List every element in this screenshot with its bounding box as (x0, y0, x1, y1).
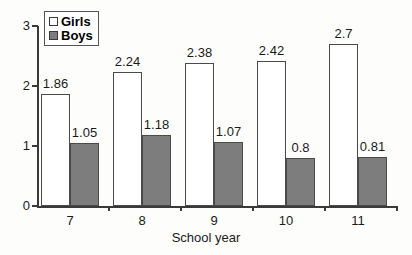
x-tick-mark (324, 206, 326, 211)
y-tick-label: 0 (10, 199, 30, 212)
x-tick-mark (252, 206, 254, 211)
bar-value-label: 2.42 (250, 44, 294, 58)
legend-swatch-girls-icon (49, 17, 58, 26)
legend-label-boys: Boys (61, 29, 93, 42)
bar-boys-year-8 (142, 135, 171, 206)
x-tick-mark (180, 206, 182, 211)
bar-girls-year-8 (113, 72, 142, 206)
bar-value-label: 0.81 (351, 140, 395, 154)
bar-value-label: 0.8 (279, 141, 323, 155)
bar-boys-year-11 (358, 157, 387, 206)
bar-value-label: 2.7 (322, 27, 366, 41)
chart-legend: Girls Boys (44, 11, 99, 46)
x-axis-title: School year (0, 231, 412, 245)
bar-girls-year-10 (257, 61, 286, 206)
x-tick-mark (396, 206, 398, 211)
bar-value-label: 2.38 (178, 46, 222, 60)
bar-value-label: 1.86 (34, 77, 78, 91)
legend-item-girls: Girls (49, 14, 93, 28)
bar-chart: 0123 1.861.052.241.182.381.072.420.82.70… (0, 0, 412, 255)
bar-value-label: 1.07 (207, 125, 251, 139)
x-tick-label-10: 10 (266, 214, 306, 228)
y-tick-label: 3 (10, 19, 30, 32)
x-tick-label-8: 8 (122, 214, 162, 228)
bar-girls-year-11 (329, 44, 358, 206)
x-tick-mark (108, 206, 110, 211)
x-tick-label-7: 7 (50, 214, 90, 228)
y-tick-label: 2 (10, 79, 30, 92)
legend-label-girls: Girls (61, 15, 91, 28)
y-axis-line (37, 26, 39, 208)
bar-value-label: 1.05 (63, 126, 107, 140)
bar-boys-year-9 (214, 142, 243, 206)
bar-boys-year-10 (286, 158, 315, 206)
y-tick-mark (32, 25, 38, 27)
bar-value-label: 2.24 (106, 55, 150, 69)
bar-value-label: 1.18 (135, 118, 179, 132)
legend-swatch-boys-icon (49, 31, 58, 40)
bar-boys-year-7 (70, 143, 99, 206)
x-tick-label-9: 9 (194, 214, 234, 228)
y-tick-label: 1 (10, 139, 30, 152)
y-tick-mark (32, 145, 38, 147)
legend-item-boys: Boys (49, 28, 93, 42)
x-axis-line (37, 206, 397, 208)
bar-girls-year-7 (41, 94, 70, 206)
x-tick-label-11: 11 (338, 214, 378, 228)
